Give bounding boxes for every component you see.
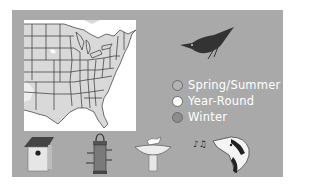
legend-label: Year-Round — [188, 94, 254, 109]
legend-label: Winter — [188, 110, 227, 125]
legend-item-year-round: Year-Round — [172, 94, 280, 109]
year-round-swatch-icon — [172, 96, 183, 107]
singing-bird-icon: ♪♫ — [193, 133, 253, 175]
range-map — [24, 20, 136, 131]
birdhouse-icon — [22, 135, 56, 173]
legend-item-spring-summer: Spring/Summer — [172, 78, 280, 93]
season-legend: Spring/Summer Year-Round Winter — [172, 78, 280, 126]
tube-feeder-icon — [84, 133, 114, 175]
legend-label: Spring/Summer — [188, 78, 280, 93]
birdbath-icon — [133, 135, 173, 173]
spring-summer-swatch-icon — [172, 80, 183, 91]
nuthatch-bird-icon — [178, 27, 236, 61]
winter-swatch-icon — [172, 112, 183, 123]
svg-text:♪♫: ♪♫ — [193, 139, 207, 149]
us-states-map-icon — [24, 20, 136, 131]
legend-item-winter: Winter — [172, 110, 280, 125]
